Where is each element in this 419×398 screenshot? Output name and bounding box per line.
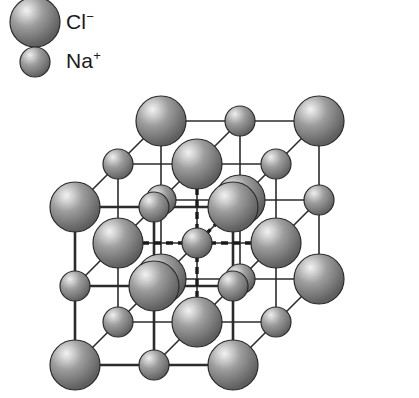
legend-symbol-sodium: Na xyxy=(66,49,93,72)
sodium-ion xyxy=(261,149,291,179)
legend-sodium-sphere xyxy=(20,47,50,77)
chloride-ion xyxy=(294,96,344,146)
chloride-ion xyxy=(172,297,222,347)
chloride-ion xyxy=(50,182,100,232)
legend-label-chloride: Cl− xyxy=(66,11,94,32)
sodium-ion xyxy=(60,271,90,301)
crystal-lattice-diagram xyxy=(0,0,419,398)
legend-charge-chloride: − xyxy=(86,9,94,24)
sodium-ion xyxy=(304,185,334,215)
legend-charge-sodium: + xyxy=(93,48,101,63)
chloride-ion xyxy=(129,261,179,311)
legend-chloride-sphere xyxy=(10,0,60,47)
sodium-ion xyxy=(225,106,255,136)
chloride-ion xyxy=(172,139,222,189)
chloride-ion xyxy=(251,218,301,268)
sodium-ion xyxy=(218,271,248,301)
legend-spheres xyxy=(10,0,60,77)
chloride-ion xyxy=(93,218,143,268)
sodium-ion xyxy=(103,307,133,337)
chloride-ion xyxy=(136,96,186,146)
sodium-ion xyxy=(139,192,169,222)
sodium-ion xyxy=(103,149,133,179)
legend-label-sodium: Na+ xyxy=(66,50,101,71)
figure-canvas: Cl− Na+ xyxy=(0,0,419,398)
chloride-ion xyxy=(294,254,344,304)
legend-symbol-chloride: Cl xyxy=(66,10,86,33)
sodium-ion xyxy=(139,350,169,380)
chloride-ion xyxy=(208,182,258,232)
sodium-ion xyxy=(182,228,212,258)
sodium-ion xyxy=(261,307,291,337)
chloride-ion xyxy=(50,340,100,390)
chloride-ion xyxy=(208,340,258,390)
